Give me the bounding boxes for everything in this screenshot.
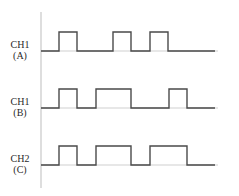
channel-a: CH1 (A) [11,32,218,62]
channel-b-label-id: (B) [13,107,26,119]
channel-c-label-id: (C) [13,164,26,176]
channel-c-label-name: CH2 [11,153,30,164]
channel-a-label-id: (A) [13,50,27,62]
channel-b: CH1 (B) [11,89,218,119]
channel-c: CH2 (C) [11,146,218,176]
channel-a-waveform [41,32,215,51]
channel-a-label-name: CH1 [11,39,30,50]
channel-b-waveform [41,89,215,108]
timing-diagram: CH1 (A) CH1 (B) CH2 (C) [0,0,239,196]
channel-b-label-name: CH1 [11,96,30,107]
channel-c-waveform [41,146,215,165]
